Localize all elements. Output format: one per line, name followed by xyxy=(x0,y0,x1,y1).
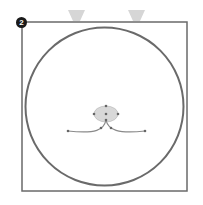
anchor-point xyxy=(105,105,108,108)
anchor-point xyxy=(67,130,70,133)
left-ear-hint xyxy=(68,10,85,21)
ear-hints xyxy=(68,10,145,21)
right-ear-hint xyxy=(128,10,145,21)
anchor-point xyxy=(105,119,108,122)
illustration-canvas: 2 xyxy=(0,0,203,205)
anchor-point xyxy=(100,127,103,130)
anchor-point xyxy=(105,113,108,116)
anchor-point xyxy=(144,130,147,133)
step-number-badge: 2 xyxy=(16,17,27,28)
anchor-point xyxy=(93,113,96,116)
anchor-point xyxy=(110,127,113,130)
anchor-point xyxy=(117,113,120,116)
face-construction-drawing xyxy=(0,0,203,205)
